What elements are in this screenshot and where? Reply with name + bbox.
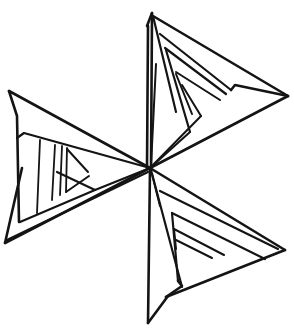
blade-upper-left-stripe-4 — [66, 148, 67, 192]
drawing-canvas — [0, 0, 294, 336]
pinwheel-star-figure — [0, 0, 294, 336]
